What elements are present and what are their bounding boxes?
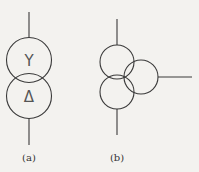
figure-b-three-winding-transformer xyxy=(100,19,192,135)
wye-symbol: Y xyxy=(23,52,34,70)
right-winding-circle xyxy=(124,60,158,94)
figure-b-label: (b) xyxy=(110,152,124,163)
diagram-canvas: Y Δ (a) (b) xyxy=(0,0,199,172)
figure-a-label: (a) xyxy=(22,152,36,163)
transformer-diagrams: Y Δ (a) (b) xyxy=(0,0,199,172)
delta-symbol: Δ xyxy=(24,88,35,106)
upper-left-winding-circle xyxy=(100,45,134,79)
figure-a-two-winding-transformer xyxy=(7,12,52,145)
lower-left-winding-circle xyxy=(100,75,134,109)
